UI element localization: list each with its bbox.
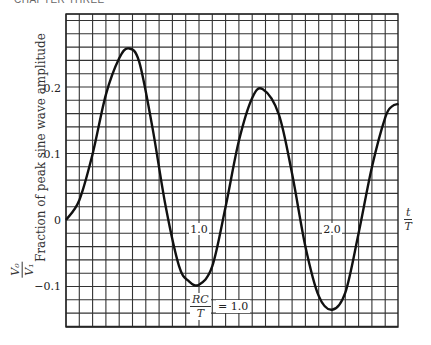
x-axis-num: t — [404, 206, 412, 220]
y-tick-label: 0 — [54, 214, 61, 227]
annotation-value: = 1.0 — [216, 300, 250, 313]
x-axis-label: t T — [404, 206, 412, 233]
series-line — [66, 48, 399, 309]
x-tick-label: 2.0 — [323, 223, 341, 236]
y-axis-label: Fraction of peak sine wave amplitude — [34, 33, 48, 262]
chart-plot: 0.20.10−0.11.02.0 — [0, 0, 431, 345]
y-axis-fraction: V₀ V₁ — [9, 261, 36, 277]
x-axis-den: T — [404, 220, 412, 233]
y-tick-label: −0.1 — [34, 280, 61, 293]
x-tick-label: 1.0 — [190, 223, 208, 236]
annotation-fraction: RC T — [190, 293, 211, 320]
